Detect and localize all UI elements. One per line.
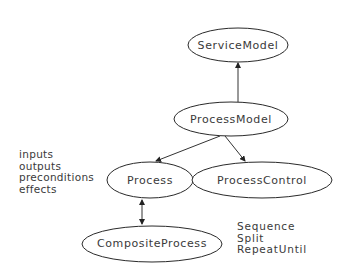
attribute-preconditions: preconditions [19, 172, 94, 184]
process-attributes-note: inputs outputs preconditions effects [19, 149, 94, 195]
edge-processmodel-to-processcontrol [225, 136, 245, 161]
construct-sequence: Sequence [237, 221, 307, 233]
attribute-inputs: inputs [19, 149, 94, 161]
node-processmodel-label: ProcessModel [190, 113, 272, 126]
construct-repeatuntil: RepeatUntil [237, 244, 307, 256]
control-constructs-note: Sequence Split RepeatUntil [237, 221, 307, 256]
edge-processmodel-to-process [156, 136, 220, 161]
node-processcontrol-label: ProcessControl [217, 174, 307, 187]
attribute-effects: effects [19, 184, 94, 196]
node-process-label: Process [127, 174, 173, 187]
node-servicemodel-label: ServiceModel [198, 39, 279, 52]
node-compositeprocess-label: CompositeProcess [97, 237, 207, 250]
